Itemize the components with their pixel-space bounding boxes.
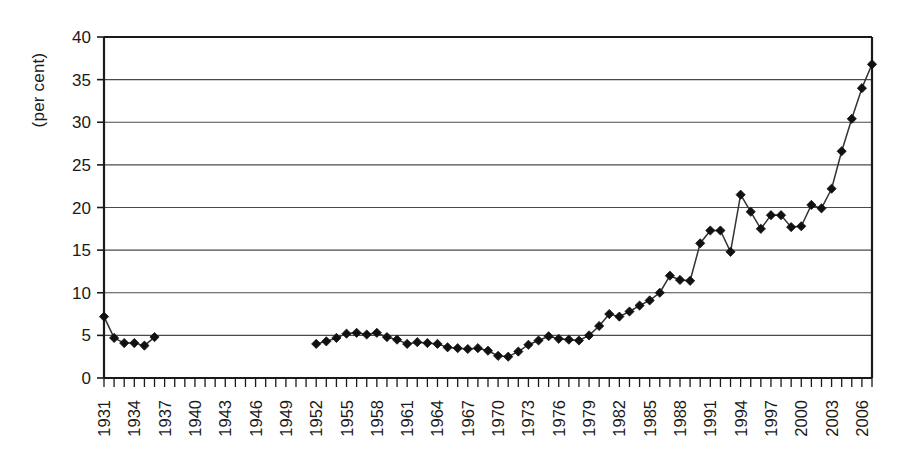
svg-text:1940: 1940: [186, 400, 204, 437]
svg-text:1964: 1964: [428, 400, 446, 437]
svg-text:15: 15: [72, 241, 91, 260]
svg-text:40: 40: [72, 28, 91, 47]
svg-text:1958: 1958: [368, 400, 386, 437]
svg-text:1967: 1967: [459, 400, 477, 437]
svg-text:20: 20: [72, 199, 91, 218]
svg-text:1976: 1976: [550, 400, 568, 437]
svg-text:1973: 1973: [519, 400, 537, 437]
data-line: [104, 64, 872, 356]
svg-text:1994: 1994: [732, 400, 750, 437]
data-markers: [99, 60, 876, 362]
line-chart-svg: 0510152025303540 19311934193719401943194…: [0, 0, 898, 468]
svg-text:1952: 1952: [307, 400, 325, 437]
svg-text:35: 35: [72, 71, 91, 90]
svg-text:2003: 2003: [823, 400, 841, 437]
svg-text:1997: 1997: [762, 400, 780, 437]
svg-text:1946: 1946: [247, 400, 265, 437]
svg-text:1955: 1955: [338, 400, 356, 437]
svg-text:1970: 1970: [489, 400, 507, 437]
svg-text:10: 10: [72, 284, 91, 303]
svg-text:1961: 1961: [398, 400, 416, 437]
x-axis-ticks: [104, 378, 872, 387]
y-axis-tick-labels: 0510152025303540: [72, 28, 91, 388]
svg-text:1991: 1991: [701, 400, 719, 437]
svg-text:2006: 2006: [853, 400, 871, 437]
svg-text:25: 25: [72, 156, 91, 175]
svg-text:1943: 1943: [216, 400, 234, 437]
svg-text:0: 0: [82, 369, 91, 388]
svg-text:1937: 1937: [156, 400, 174, 437]
gridlines: [104, 37, 872, 335]
plot-area: 0510152025303540 19311934193719401943194…: [0, 0, 898, 468]
svg-text:1931: 1931: [95, 400, 113, 437]
svg-text:1949: 1949: [277, 400, 295, 437]
svg-text:1985: 1985: [641, 400, 659, 437]
chart-figure: (per cent) 0510152025303540 193119341937…: [0, 0, 898, 468]
svg-text:2000: 2000: [792, 400, 810, 437]
svg-text:1934: 1934: [125, 400, 143, 437]
x-axis-tick-labels: 1931193419371940194319461949195219551958…: [95, 400, 871, 437]
svg-text:1988: 1988: [671, 400, 689, 437]
svg-text:1979: 1979: [580, 400, 598, 437]
svg-text:5: 5: [82, 326, 91, 345]
svg-text:1982: 1982: [610, 400, 628, 437]
svg-text:30: 30: [72, 113, 91, 132]
